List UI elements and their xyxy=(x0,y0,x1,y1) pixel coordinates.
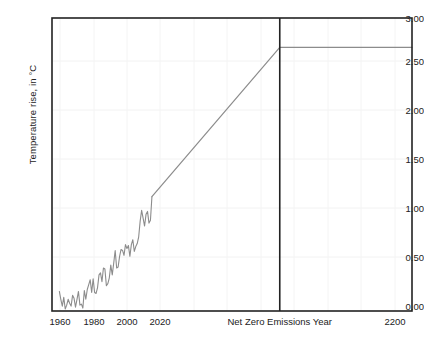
y-tick-label-1-5: 1.50 xyxy=(378,154,424,165)
y-tick-label-0-5: 0.50 xyxy=(378,252,424,263)
x-tick-label-2020: 2020 xyxy=(140,316,180,327)
y-tick-label-3: 3.00 xyxy=(378,13,424,24)
y-tick-label-1: 1.00 xyxy=(378,203,424,214)
plot-area xyxy=(0,0,424,341)
gridlines xyxy=(52,18,412,311)
y-axis-label: Temperature rise, in °C xyxy=(27,35,38,195)
plot-frame xyxy=(52,18,412,311)
x-tick-label-2200: 2200 xyxy=(375,316,415,327)
temperature-projection-chart: Temperature rise, in °C 3.00 2.50 2.00 1… xyxy=(0,0,424,341)
y-tick-label-2: 2.00 xyxy=(378,105,424,116)
net-zero-emissions-year-label: Net Zero Emissions Year xyxy=(220,316,340,327)
historical-temperature-line xyxy=(59,197,152,309)
y-tick-label-2-5: 2.50 xyxy=(378,56,424,67)
projected-temperature-line xyxy=(152,47,412,196)
y-tick-label-0: 0.00 xyxy=(378,301,424,312)
